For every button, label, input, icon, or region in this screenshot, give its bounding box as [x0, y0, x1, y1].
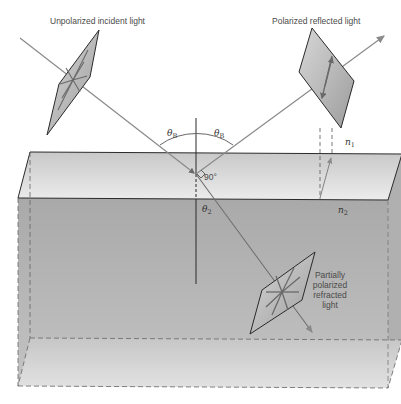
incident-label: Unpolarized incident light — [50, 16, 146, 26]
n1-label: n1 — [345, 137, 355, 149]
refracted-label-line-1: Partially — [315, 270, 346, 280]
diagram-canvas: Unpolarized incident light Polarized ref… — [0, 0, 401, 404]
refracted-label-line-4: light — [322, 300, 338, 310]
right-angle-label: 90° — [204, 172, 217, 182]
theta-b-left-label: θB — [167, 128, 177, 140]
medium-bottom-face — [18, 338, 401, 388]
incident-polarizer — [47, 30, 99, 135]
refracted-label-line-3: refracted — [313, 290, 347, 300]
refracted-label-line-2: polarized — [313, 280, 348, 290]
reflected-label: Polarized reflected light — [272, 16, 361, 26]
theta-b-right-label: θB — [214, 128, 224, 140]
reflected-polarizer — [299, 28, 354, 128]
brewster-diagram: Unpolarized incident light Polarized ref… — [0, 0, 401, 404]
